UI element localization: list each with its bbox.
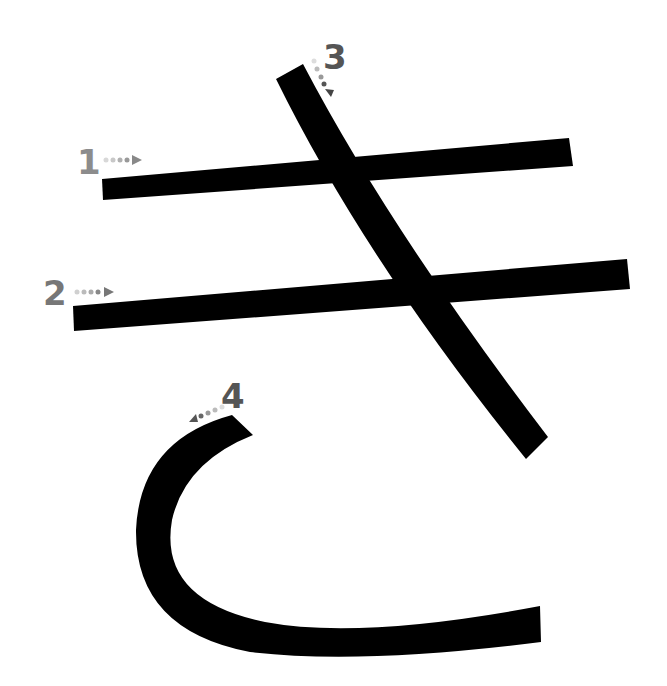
stroke-4-number: 4 bbox=[221, 376, 245, 416]
stroke-order-diagram: 1 2 3 4 bbox=[0, 0, 667, 686]
stroke-3 bbox=[276, 64, 548, 459]
stroke-1-number: 1 bbox=[77, 142, 101, 182]
stroke-3-number: 3 bbox=[323, 37, 347, 77]
stroke-1-arrow-icon bbox=[104, 155, 143, 165]
stroke-2-number: 2 bbox=[43, 273, 67, 313]
stroke-2 bbox=[73, 259, 630, 331]
stroke-2-arrow-icon bbox=[75, 287, 115, 297]
stroke-4 bbox=[136, 415, 541, 657]
